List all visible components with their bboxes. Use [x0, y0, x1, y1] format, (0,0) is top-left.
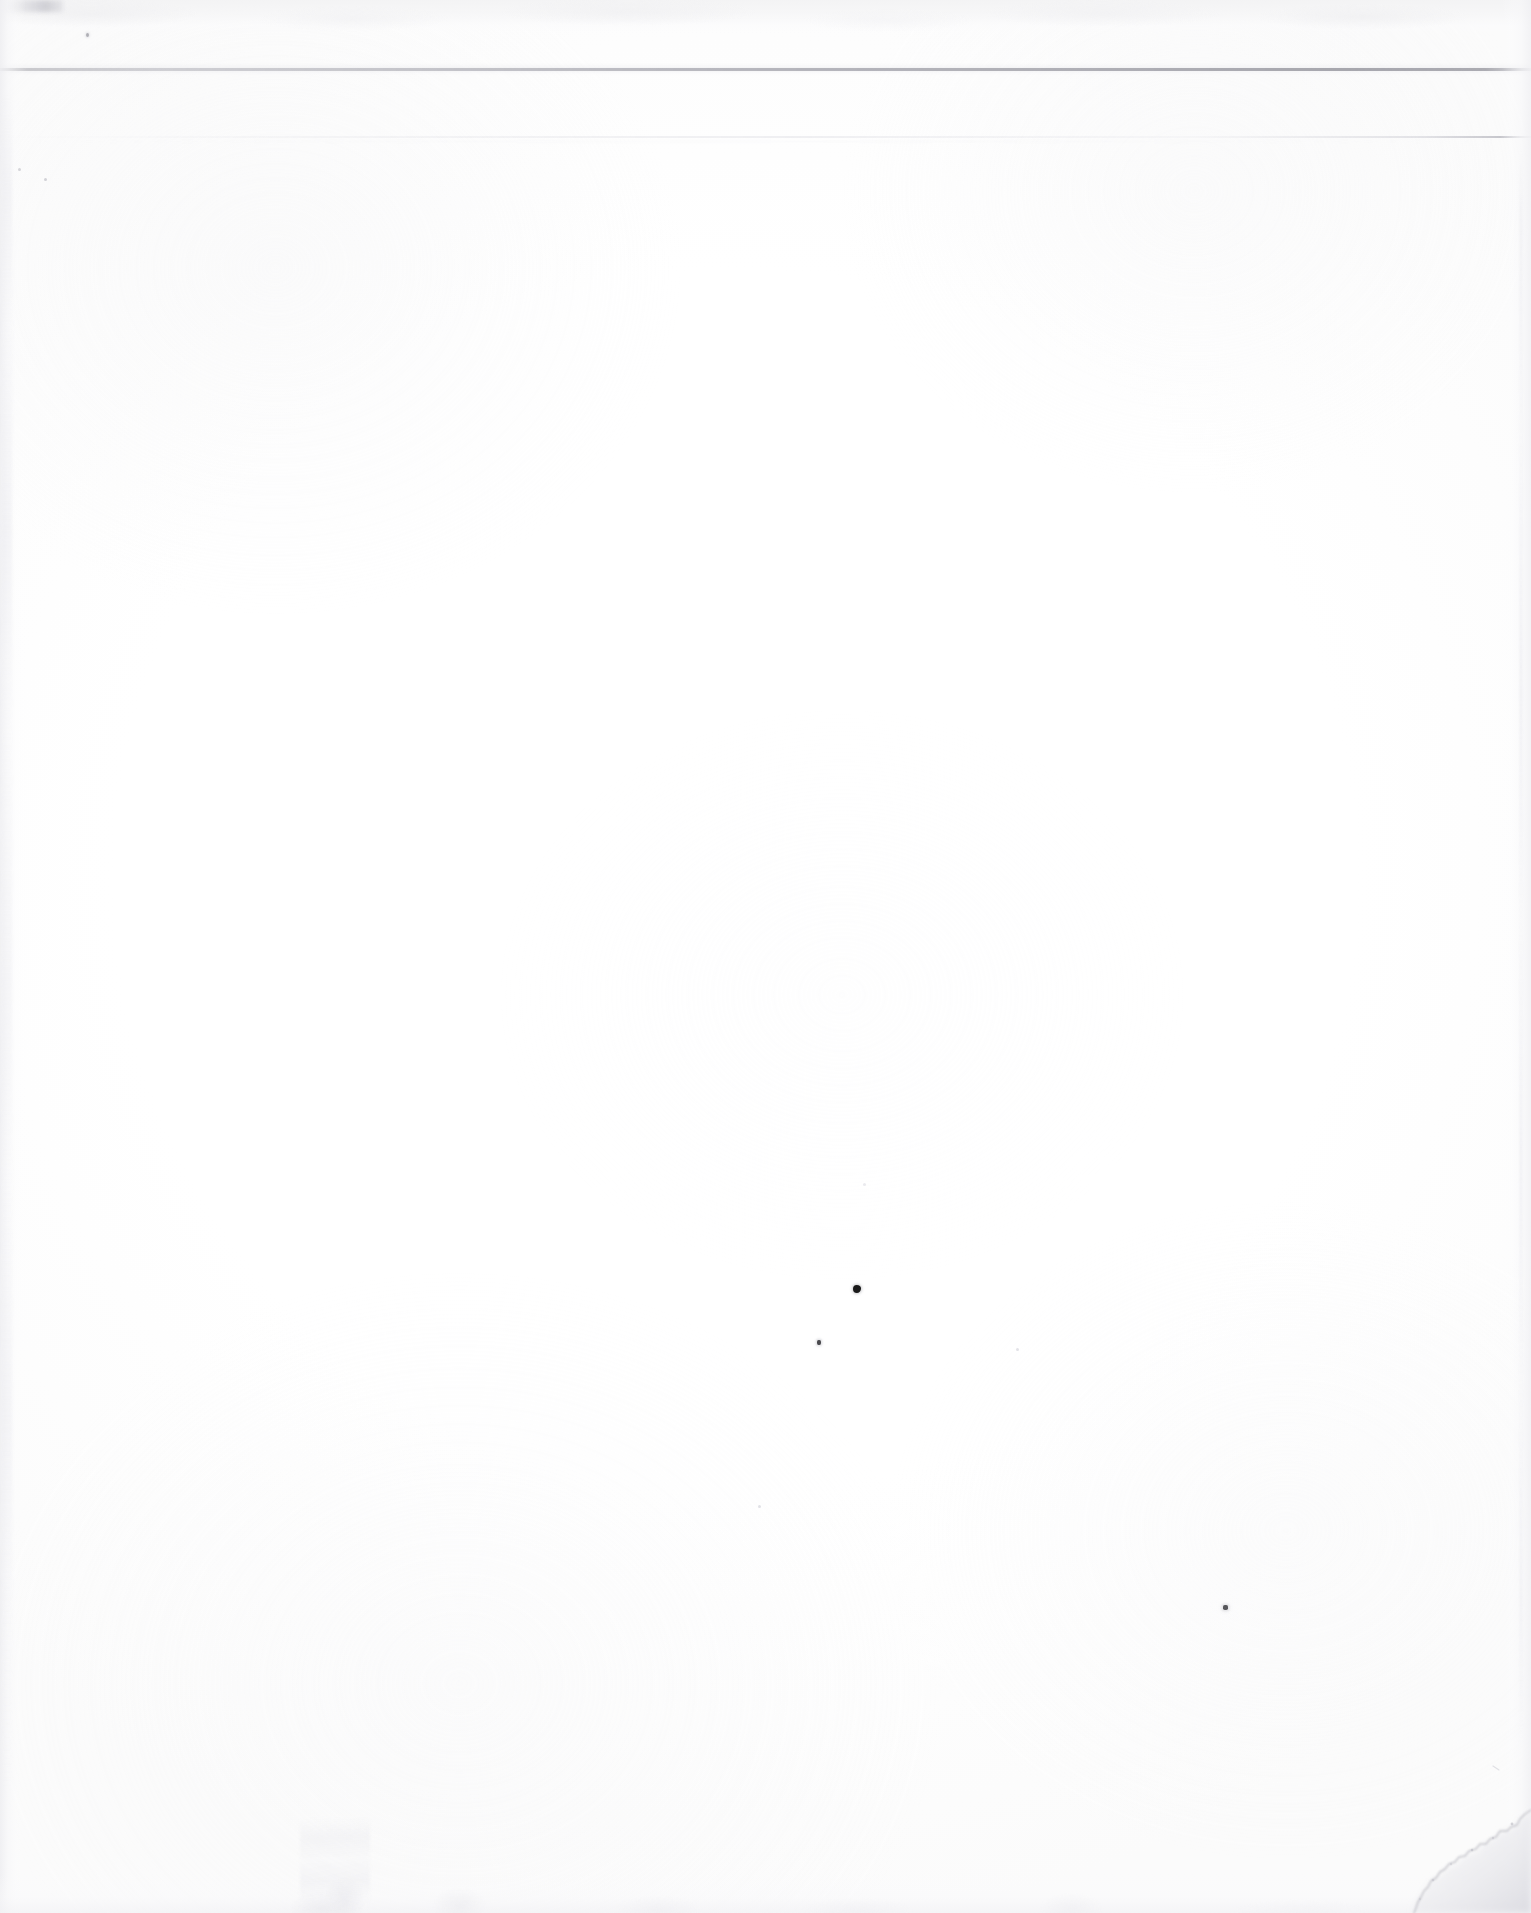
- right-edge-line: [1520, 150, 1522, 1750]
- scanned-page: [0, 0, 1531, 1913]
- paper-fiber-smudge: [300, 1818, 370, 1910]
- scanner-bed-speckle: [0, 0, 1531, 34]
- right-edge-shadow: [1501, 0, 1531, 1913]
- bottom-edge-fibers: [0, 1853, 1531, 1913]
- left-edge-streak: [2, 90, 12, 1790]
- paper-mottle-texture: [0, 0, 1531, 1913]
